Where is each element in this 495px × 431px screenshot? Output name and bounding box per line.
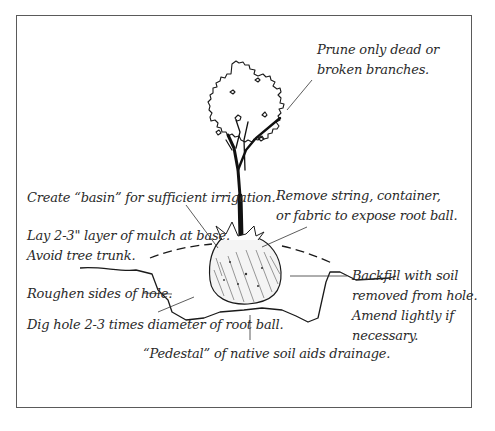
label-basin: Create “basin” for sufficient irrigation… <box>27 188 275 208</box>
label-basin-line1: Create “basin” for sufficient irrigation… <box>27 188 275 208</box>
label-mulch: Lay 2-3" layer of mulch at base. Avoid t… <box>27 226 230 266</box>
label-roughen-line1: Roughen sides of hole. <box>27 284 172 304</box>
label-remove-line1: Remove string, container, <box>276 186 457 206</box>
label-prune-line1: Prune only dead or <box>317 40 439 60</box>
label-backfill-line2: removed from hole. <box>352 286 477 306</box>
label-prune-line2: broken branches. <box>317 60 439 80</box>
label-backfill: Backfill with soil removed from hole. Am… <box>352 266 477 346</box>
label-remove-line2: or fabric to expose root ball. <box>276 206 457 226</box>
label-dig: Dig hole 2-3 times diameter of root ball… <box>27 315 283 335</box>
label-mulch-line2: Avoid tree trunk. <box>27 246 230 266</box>
label-remove: Remove string, container, or fabric to e… <box>276 186 457 226</box>
label-dig-line1: Dig hole 2-3 times diameter of root ball… <box>27 315 283 335</box>
label-pedestal: “Pedestal” of native soil aids drainage. <box>143 344 390 364</box>
label-prune: Prune only dead or broken branches. <box>317 40 439 80</box>
label-mulch-line1: Lay 2-3" layer of mulch at base. <box>27 226 230 246</box>
label-backfill-line4: necessary. <box>352 326 477 346</box>
label-pedestal-line1: “Pedestal” of native soil aids drainage. <box>143 344 390 364</box>
label-backfill-line3: Amend lightly if <box>352 306 477 326</box>
label-backfill-line1: Backfill with soil <box>352 266 477 286</box>
label-roughen: Roughen sides of hole. <box>27 284 172 304</box>
